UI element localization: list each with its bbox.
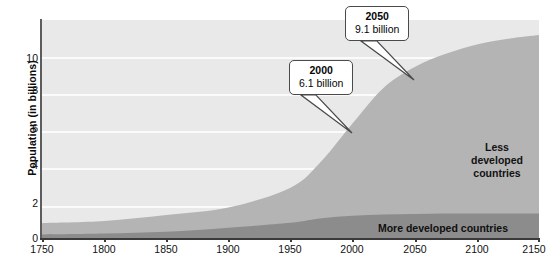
y-tick-2: 2 bbox=[16, 198, 38, 209]
y-tick-10: 10 bbox=[16, 53, 38, 64]
x-tick-1800: 1800 bbox=[81, 243, 127, 255]
less-developed-line-3: countries bbox=[473, 167, 520, 179]
y-axis-line bbox=[40, 19, 42, 239]
less-developed-line-2: developed bbox=[471, 154, 523, 166]
x-tick-2100: 2100 bbox=[454, 243, 500, 255]
y-axis-tick-labels: 10 8 6 4 2 0 bbox=[12, 0, 38, 265]
y-tick-0: 0 bbox=[16, 233, 38, 244]
x-tickmark-1850 bbox=[166, 238, 168, 242]
x-tickmark-2100 bbox=[477, 238, 479, 242]
callout-2050-value: 9.1 billion bbox=[355, 23, 399, 36]
less-developed-line-1: Less bbox=[485, 141, 509, 153]
x-tickmark-2000 bbox=[352, 238, 354, 242]
plot-area: Less developed countries bbox=[42, 20, 539, 238]
x-tick-1900: 1900 bbox=[205, 243, 251, 255]
callout-2000: 2000 6.1 billion bbox=[289, 60, 353, 95]
more-developed-countries-label: More developed countries bbox=[363, 222, 523, 234]
x-tickmark-2150 bbox=[538, 238, 540, 242]
stacked-area-series bbox=[42, 20, 539, 238]
y-tick-8: 8 bbox=[16, 85, 38, 96]
callout-2000-year: 2000 bbox=[299, 64, 343, 77]
x-tick-1850: 1850 bbox=[143, 243, 189, 255]
x-tick-1750: 1750 bbox=[19, 243, 65, 255]
x-tick-1950: 1950 bbox=[267, 243, 313, 255]
x-tickmark-1900 bbox=[228, 238, 230, 242]
callout-2000-value: 6.1 billion bbox=[299, 77, 343, 90]
y-tick-4: 4 bbox=[16, 160, 38, 171]
x-tick-2050: 2050 bbox=[392, 243, 438, 255]
less-developed-countries-label: Less developed countries bbox=[449, 141, 539, 180]
callout-2050-year: 2050 bbox=[355, 10, 399, 23]
x-tickmark-1800 bbox=[104, 238, 106, 242]
x-tickmark-1950 bbox=[290, 238, 292, 242]
callout-2050: 2050 9.1 billion bbox=[345, 6, 409, 41]
population-growth-area-chart: Population (in billions) 10 8 6 4 2 0 Le… bbox=[0, 0, 556, 265]
x-tickmark-1750 bbox=[42, 238, 44, 242]
y-tick-6: 6 bbox=[16, 123, 38, 134]
x-tick-2150: 2150 bbox=[511, 243, 556, 255]
x-tick-2000: 2000 bbox=[329, 243, 375, 255]
x-tickmark-2050 bbox=[415, 238, 417, 242]
